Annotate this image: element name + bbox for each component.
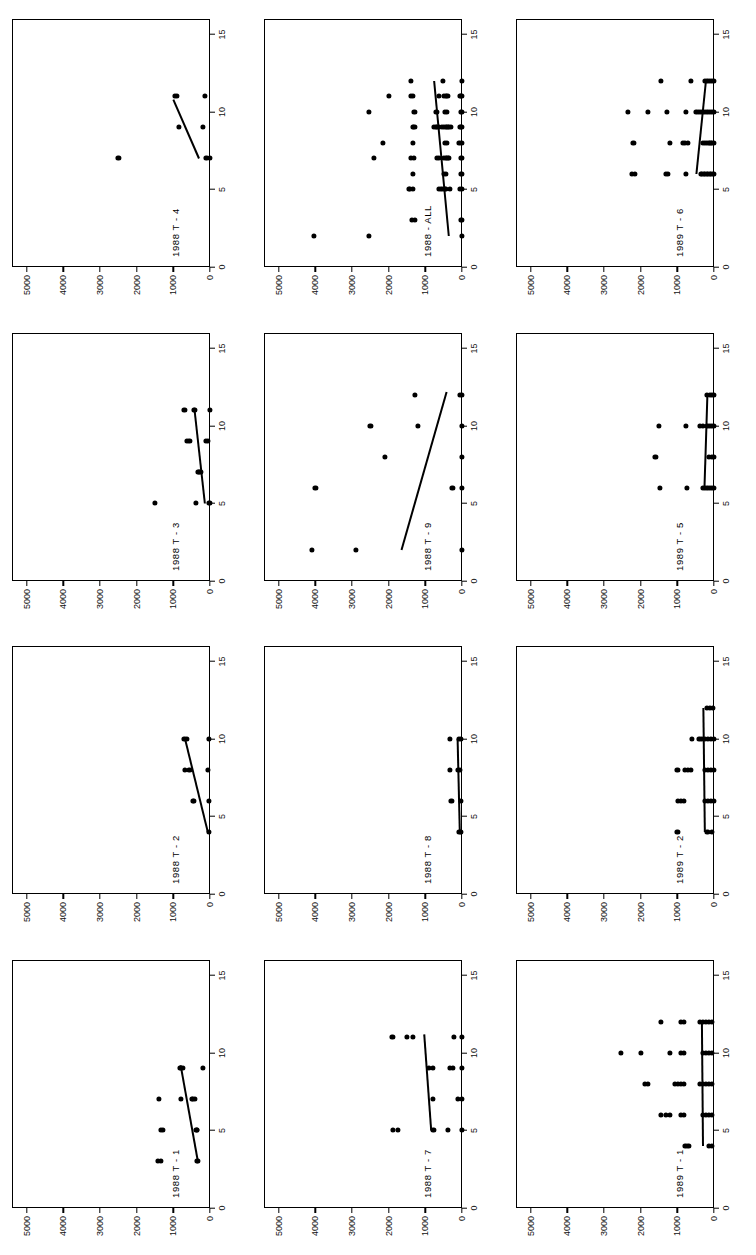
y-tick-label: 5000 [274, 902, 284, 922]
y-tick-label: 0 [709, 1216, 719, 1221]
x-tick [462, 347, 467, 348]
y-tick [713, 267, 714, 272]
x-axis: 051015 [462, 960, 488, 1208]
y-tick [425, 894, 426, 899]
x-tick [210, 1052, 215, 1053]
scatter-panel: 0510150100020003000400050001988 T - 1 [2, 944, 250, 1252]
y-tick [351, 894, 352, 899]
panel-title: 1989 T - 2 [674, 835, 685, 884]
panel-rotated-group: 0510150100020003000400050001988 T - 8 [254, 630, 502, 938]
y-tick-label: 3000 [95, 275, 105, 295]
y-tick [136, 894, 137, 899]
y-tick-label: 2000 [636, 902, 646, 922]
y-tick [461, 1208, 462, 1213]
y-axis: 010002000300040005000 [12, 267, 210, 311]
x-axis: 051015 [714, 19, 740, 267]
x-tick-label: 5 [469, 501, 479, 506]
y-tick [278, 267, 279, 272]
panel-title: 1988 T - 8 [422, 835, 433, 884]
y-tick-label: 4000 [58, 902, 68, 922]
y-tick-label: 3000 [599, 275, 609, 295]
y-tick-label: 5000 [526, 275, 536, 295]
y-tick-label: 2000 [636, 275, 646, 295]
y-tick-label: 1000 [672, 902, 682, 922]
x-tick [210, 661, 215, 662]
y-tick-label: 3000 [347, 589, 357, 609]
x-tick-label: 5 [469, 187, 479, 192]
y-tick-label: 5000 [22, 589, 32, 609]
y-tick-label: 1000 [168, 589, 178, 609]
x-tick [462, 1207, 467, 1208]
y-tick-label: 0 [709, 275, 719, 280]
x-tick-label: 0 [721, 892, 731, 897]
y-tick [173, 267, 174, 272]
panel-title: 1988 T - 3 [170, 522, 181, 571]
x-tick [462, 580, 467, 581]
y-tick-label: 5000 [22, 1216, 32, 1236]
x-tick-label: 5 [217, 1128, 227, 1133]
y-tick [603, 267, 604, 272]
y-tick-label: 4000 [58, 1216, 68, 1236]
y-tick-label: 2000 [636, 1216, 646, 1236]
x-tick [714, 347, 719, 348]
y-tick [388, 267, 389, 272]
y-tick [640, 894, 641, 899]
y-tick-label: 5000 [274, 589, 284, 609]
x-tick-label: 0 [469, 264, 479, 269]
y-tick-label: 3000 [599, 589, 609, 609]
y-axis: 010002000300040005000 [516, 894, 714, 938]
x-tick-label: 0 [469, 892, 479, 897]
x-tick-label: 5 [469, 814, 479, 819]
x-tick [714, 975, 719, 976]
x-tick-label: 10 [217, 1048, 227, 1058]
x-axis: 051015 [210, 646, 236, 894]
y-tick-label: 0 [205, 589, 215, 594]
y-tick [26, 581, 27, 586]
y-tick-label: 1000 [420, 1216, 430, 1236]
x-tick-label: 15 [721, 657, 731, 667]
y-tick-label: 2000 [132, 275, 142, 295]
y-tick [278, 581, 279, 586]
x-axis: 051015 [462, 19, 488, 267]
y-tick-label: 4000 [562, 589, 572, 609]
y-tick [99, 581, 100, 586]
panel-rotated-group: 0510150100020003000400050001988 T - 3 [2, 317, 250, 625]
x-tick-label: 5 [721, 501, 731, 506]
x-axis: 051015 [210, 19, 236, 267]
y-tick-label: 5000 [22, 275, 32, 295]
y-tick [351, 1208, 352, 1213]
x-tick [714, 580, 719, 581]
y-tick [640, 1208, 641, 1213]
x-tick [462, 189, 467, 190]
panel-title: 1988 T - 9 [422, 522, 433, 571]
y-tick [209, 267, 210, 272]
x-tick-label: 15 [217, 343, 227, 353]
panel-rotated-group: 0510150100020003000400050001988 T - 4 [2, 3, 250, 311]
y-tick [99, 267, 100, 272]
y-tick [315, 894, 316, 899]
y-axis: 010002000300040005000 [12, 894, 210, 938]
y-axis: 010002000300040005000 [264, 581, 462, 625]
y-tick [567, 1208, 568, 1213]
x-tick [714, 502, 719, 503]
x-tick-label: 5 [469, 1128, 479, 1133]
y-tick [173, 894, 174, 899]
y-tick [136, 581, 137, 586]
y-tick-label: 2000 [384, 902, 394, 922]
y-axis: 010002000300040005000 [12, 581, 210, 625]
scatter-panel: 0510150100020003000400050001988 T - 3 [2, 317, 250, 625]
x-tick-label: 10 [721, 107, 731, 117]
x-tick [210, 189, 215, 190]
y-tick [209, 581, 210, 586]
y-axis: 010002000300040005000 [516, 267, 714, 311]
x-tick-label: 15 [217, 657, 227, 667]
y-tick-label: 5000 [526, 1216, 536, 1236]
x-tick [714, 1207, 719, 1208]
y-tick-label: 1000 [168, 1216, 178, 1236]
y-tick-label: 3000 [599, 902, 609, 922]
y-tick [640, 267, 641, 272]
panel-title: 1989 T - 5 [674, 522, 685, 571]
y-tick-label: 0 [205, 1216, 215, 1221]
x-tick [714, 111, 719, 112]
y-tick-label: 1000 [168, 275, 178, 295]
